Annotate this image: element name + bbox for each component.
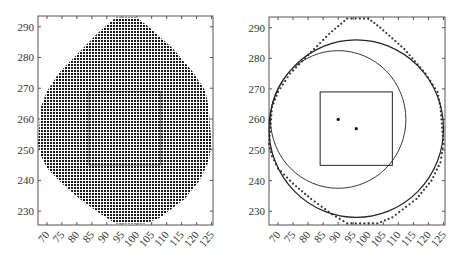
boundary-point xyxy=(384,219,386,221)
boundary-point xyxy=(436,169,438,171)
x-tick-label: 75 xyxy=(281,228,298,245)
y-tick-label: 250 xyxy=(18,144,35,156)
y-tick-label: 290 xyxy=(18,21,35,33)
boundary-point xyxy=(342,220,344,222)
boundary-point xyxy=(409,54,411,56)
boundary-point xyxy=(289,180,291,182)
left-plot-svg: 2302402502602702802907075808590951001051… xyxy=(0,0,231,255)
boundary-point xyxy=(292,183,294,185)
boundary-point xyxy=(373,22,375,24)
boundary-point xyxy=(359,222,361,224)
boundary-point xyxy=(441,122,443,124)
boundary-point xyxy=(367,17,369,19)
boundary-point xyxy=(346,17,348,19)
boundary-point xyxy=(408,203,410,205)
boundary-point xyxy=(395,214,397,216)
y-tick-label: 250 xyxy=(249,144,266,156)
boundary-point xyxy=(319,42,321,44)
boundary-point xyxy=(310,198,312,200)
boundary-point xyxy=(363,17,365,19)
boundary-point xyxy=(283,173,285,175)
boundary-point xyxy=(391,37,393,39)
x-tick-label: 75 xyxy=(50,228,67,245)
y-tick-label: 270 xyxy=(249,83,266,95)
boundary-point xyxy=(411,57,413,59)
boundary-point xyxy=(350,17,352,19)
x-tick-label: 70 xyxy=(266,228,283,245)
boundary-point xyxy=(412,201,414,203)
boundary-point xyxy=(440,157,442,159)
y-tick-label: 230 xyxy=(18,205,35,217)
x-tick-label: 70 xyxy=(35,228,52,245)
boundary-point xyxy=(304,193,306,195)
boundary-point xyxy=(331,30,333,32)
boundary-point xyxy=(350,222,352,224)
boundary-point xyxy=(423,189,425,191)
boundary-points xyxy=(268,17,445,224)
boundary-point xyxy=(380,221,382,223)
boundary-point xyxy=(339,218,341,220)
boundary-point xyxy=(438,165,440,167)
x-tick-label: 85 xyxy=(80,228,97,245)
boundary-point xyxy=(418,195,420,197)
boundary-point xyxy=(316,45,318,47)
boundary-point xyxy=(372,222,374,224)
y-tick-label: 290 xyxy=(249,22,266,34)
boundary-point xyxy=(376,24,378,26)
boundary-point xyxy=(301,190,303,192)
boundary-point xyxy=(440,118,442,120)
boundary-point xyxy=(292,69,294,71)
boundary-point xyxy=(436,91,438,93)
left-plot-panel: 2302402502602702802907075808590951001051… xyxy=(0,0,231,255)
boundary-point xyxy=(397,43,399,45)
boundary-point xyxy=(322,39,324,41)
boundary-point xyxy=(321,206,323,208)
boundary-point xyxy=(334,28,336,30)
sample-grid-region xyxy=(38,18,212,224)
center-point xyxy=(355,127,358,130)
boundary-point xyxy=(355,222,357,224)
boundary-point xyxy=(317,203,319,205)
boundary-point xyxy=(379,27,381,29)
boundary-point xyxy=(405,206,407,208)
x-tick-label: 80 xyxy=(65,228,82,245)
y-tick-label: 280 xyxy=(18,51,35,63)
boundary-point xyxy=(286,176,288,178)
x-tick-label: 125 xyxy=(428,228,448,249)
boundary-point xyxy=(376,222,378,224)
boundary-point xyxy=(279,87,281,89)
boundary-point xyxy=(394,40,396,42)
boundary-point xyxy=(343,20,345,22)
boundary-point xyxy=(289,72,291,74)
y-tick-label: 230 xyxy=(249,205,266,217)
boundary-point xyxy=(415,198,417,200)
boundary-point xyxy=(282,84,284,86)
boundary-point xyxy=(391,216,393,218)
y-tick-label: 280 xyxy=(249,52,266,64)
boundary-point xyxy=(340,23,342,25)
right-plot-panel: 2302402502602702802907075808590951001051… xyxy=(231,0,463,255)
boundary-point xyxy=(428,183,430,185)
boundary-point xyxy=(355,17,357,19)
boundary-point xyxy=(385,32,387,34)
boundary-point xyxy=(398,211,400,213)
boundary-point xyxy=(368,222,370,224)
boundary-point xyxy=(314,200,316,202)
boundary-point xyxy=(359,17,361,19)
boundary-point xyxy=(324,208,326,210)
boundary-point xyxy=(430,180,432,182)
x-tick-label: 90 xyxy=(95,228,112,245)
boundary-point xyxy=(441,152,443,154)
boundary-point xyxy=(298,188,300,190)
boundary-point xyxy=(387,218,389,220)
boundary-point xyxy=(337,25,339,27)
boundary-point xyxy=(287,76,289,78)
right-plot-svg: 2302402502602702802907075808590951001051… xyxy=(231,0,463,255)
x-tick-label: 90 xyxy=(326,228,343,245)
boundary-point xyxy=(335,215,337,217)
y-tick-label: 240 xyxy=(249,175,266,187)
boundary-point xyxy=(346,222,348,224)
boundary-point xyxy=(434,172,436,174)
x-tick-label: 125 xyxy=(196,228,216,249)
boundary-point xyxy=(388,35,390,37)
